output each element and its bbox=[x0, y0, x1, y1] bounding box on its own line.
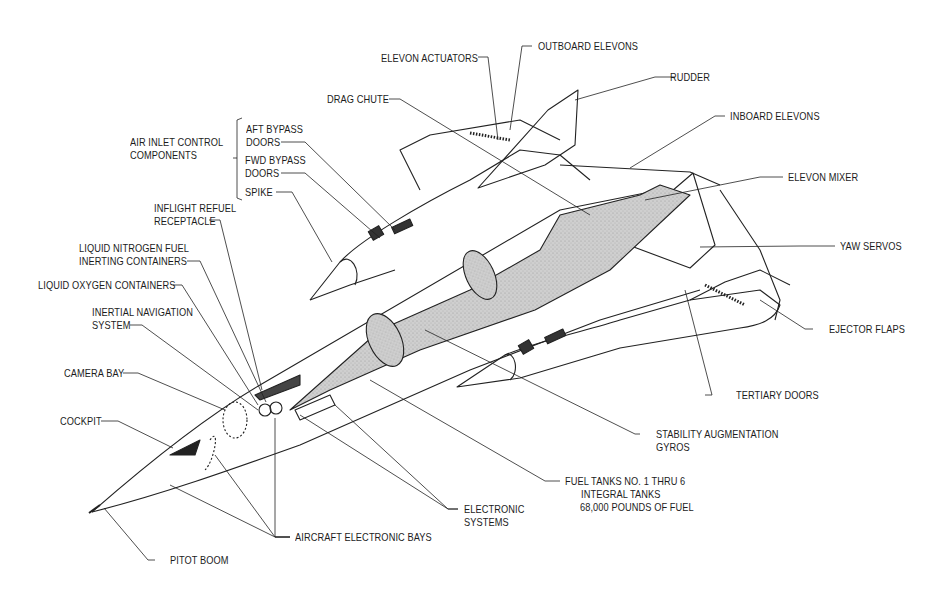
label-inertial-navigation-system: INERTIAL NAVIGATION SYSTEM bbox=[92, 306, 193, 332]
label-stability-augmentation-gyros: STABILITY AUGMENTATION GYROS bbox=[656, 428, 778, 454]
left-rudder bbox=[478, 90, 578, 188]
label-ejector-flaps: EJECTOR FLAPS bbox=[829, 323, 905, 336]
label-outboard-elevons: OUTBOARD ELEVONS bbox=[538, 40, 638, 53]
label-fwd-bypass-doors: FWD BYPASS DOORS bbox=[245, 154, 306, 180]
fwd-bypass-door bbox=[368, 226, 383, 241]
label-elevon-actuators: ELEVON ACTUATORS bbox=[381, 52, 478, 65]
label-fuel-tanks: FUEL TANKS NO. 1 THRU 6 bbox=[565, 475, 685, 488]
label-pitot-boom: PITOT BOOM bbox=[170, 554, 229, 567]
label-aircraft-electronic-bays: AIRCRAFT ELECTRONIC BAYS bbox=[295, 531, 432, 544]
label-aft-bypass-doors: AFT BYPASS DOORS bbox=[246, 123, 303, 149]
label-drag-chute: DRAG CHUTE bbox=[327, 93, 389, 106]
fuel-tanks bbox=[290, 185, 690, 410]
label-air-inlet-control-components: AIR INLET CONTROL COMPONENTS bbox=[130, 136, 223, 162]
label-liquid-oxygen-containers: LIQUID OXYGEN CONTAINERS bbox=[38, 279, 175, 292]
label-cockpit: COCKPIT bbox=[60, 415, 102, 428]
label-tertiary-doors: TERTIARY DOORS bbox=[736, 389, 819, 402]
label-rudder: RUDDER bbox=[670, 71, 710, 84]
label-spike: SPIKE bbox=[245, 186, 273, 199]
nitrogen-container bbox=[270, 402, 282, 414]
label-camera-bay: CAMERA BAY bbox=[64, 367, 124, 380]
aircraft-cutaway-diagram: ELEVON ACTUATORS OUTBOARD ELEVONS RUDDER… bbox=[0, 0, 935, 590]
label-integral-tanks: INTEGRAL TANKS bbox=[581, 488, 661, 501]
oxygen-container bbox=[259, 404, 271, 416]
label-yaw-servos: YAW SERVOS bbox=[840, 240, 902, 253]
label-inflight-refuel-receptacle: INFLIGHT REFUEL RECEPTACLE bbox=[154, 202, 236, 228]
label-inboard-elevons: INBOARD ELEVONS bbox=[730, 110, 820, 123]
camera-bay-outline bbox=[223, 402, 247, 438]
cockpit-canopy bbox=[170, 440, 200, 455]
label-liquid-nitrogen-containers: LIQUID NITROGEN FUEL INERTING CONTAINERS bbox=[79, 242, 189, 268]
electronics-box bbox=[295, 395, 335, 420]
aircraft-drawing bbox=[0, 0, 935, 590]
label-electronic-systems: ELECTRONIC SYSTEMS bbox=[464, 503, 524, 529]
label-elevon-mixer: ELEVON MIXER bbox=[788, 171, 858, 184]
label-fuel-capacity: 68,000 POUNDS OF FUEL bbox=[580, 501, 694, 514]
